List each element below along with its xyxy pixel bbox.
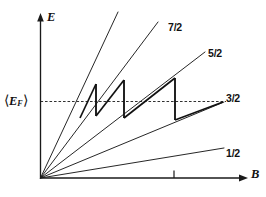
- ray-label-7-2: 7/2: [168, 22, 182, 33]
- fermi-close-bracket: ⟩: [23, 93, 28, 108]
- level-ray-5-2: [41, 52, 206, 178]
- energy-axis-label: E: [47, 11, 55, 24]
- ray-label-3-2: 3/2: [226, 93, 240, 104]
- ray-label-5-2: 5/2: [208, 48, 222, 59]
- magnetic-field-axis: [41, 171, 249, 182]
- level-ray-3-2: [41, 102, 225, 178]
- magnetic-field-axis-label: B: [251, 168, 259, 181]
- level-ray-7-2: [41, 22, 159, 178]
- level-ray-9-2: [41, 12, 119, 178]
- landau-level-figure: E B ⟨EF⟩ 7/2 5/2 3/2 1/2: [0, 0, 266, 197]
- sawtooth-rise-4: [175, 102, 223, 120]
- ray-label-1-2: 1/2: [226, 148, 240, 159]
- energy-axis: [37, 13, 44, 179]
- field-axis-arrowhead: [239, 175, 248, 182]
- fermi-level-label: ⟨EF⟩: [4, 94, 28, 108]
- sawtooth-rise-3: [124, 78, 175, 118]
- energy-axis-arrowhead: [37, 13, 44, 22]
- sawtooth-oscillation-path: [80, 78, 223, 120]
- landau-level-rays: [41, 12, 225, 178]
- level-ray-1-2: [41, 148, 225, 178]
